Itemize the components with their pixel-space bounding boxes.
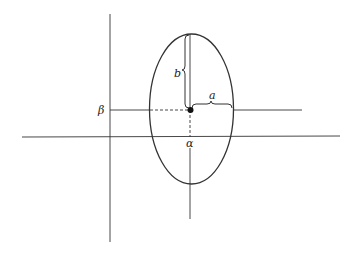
b-brace: [182, 35, 189, 108]
beta-label: β: [97, 104, 104, 117]
b-label: b: [174, 67, 181, 80]
a-brace: [192, 101, 232, 108]
ellipse-diagram: b a β α: [0, 0, 351, 254]
x-axis: [22, 136, 340, 137]
alpha-label: α: [186, 137, 194, 150]
a-label: a: [209, 89, 216, 102]
